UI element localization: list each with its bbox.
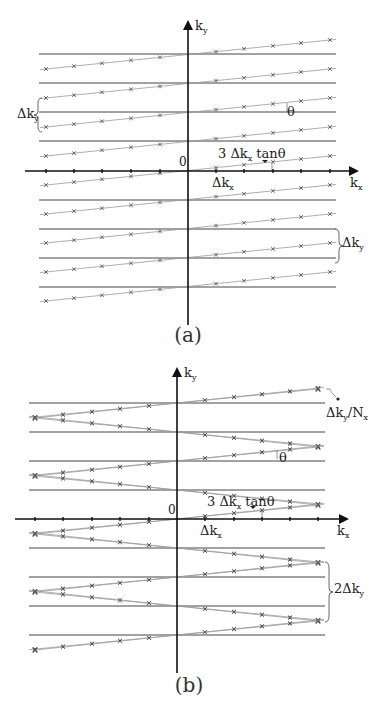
panel-a: kxky0 Δkyθ3 Δkx tanθΔkxΔky (a) (17, 18, 364, 347)
label-three-dkx-tan: 3 Δkx tanθ (207, 494, 275, 511)
label-theta: θ (279, 450, 287, 465)
label-delta-kx: Δkx (200, 523, 222, 540)
label-ky-axis: ky (184, 365, 197, 382)
brace-icon (325, 562, 333, 622)
label-delta-ky-over-nx: Δky/Nx (326, 405, 369, 422)
label-delta-ky-right: Δky (342, 235, 364, 252)
label-delta-kx: Δkx (212, 175, 234, 192)
label-two-delta-ky: 2Δky (334, 581, 365, 598)
origin-label: 0 (179, 155, 187, 169)
annotations: Δkyθ3 Δkx tanθΔkxΔky (17, 98, 364, 263)
label-delta-ky-left: Δky (17, 106, 39, 123)
label-three-dkx-tan: 3 Δkx tanθ (218, 146, 286, 163)
panel-b: kxky0 Δky/Nxθ3 Δkx tanθΔkx2Δky (b) (15, 365, 369, 697)
axes: kxky0 (15, 365, 350, 673)
annotations: Δky/Nxθ3 Δkx tanθΔkx2Δky (200, 389, 369, 622)
pointer-line (326, 389, 336, 397)
origin-label: 0 (168, 503, 176, 517)
label-theta: θ (287, 104, 295, 119)
panel-caption-a: (a) (174, 323, 202, 347)
label-ky-axis: ky (195, 18, 208, 35)
panel-caption-b: (b) (175, 673, 203, 697)
k-space-trajectory-diagram: kxky0 Δkyθ3 Δkx tanθΔkxΔky (a) kxky0 (0, 0, 379, 715)
label-kx-axis: kx (350, 175, 363, 192)
axes: kxky0 (25, 18, 363, 325)
label-kx-axis: kx (337, 523, 350, 540)
pointer-dot-icon (336, 397, 339, 400)
